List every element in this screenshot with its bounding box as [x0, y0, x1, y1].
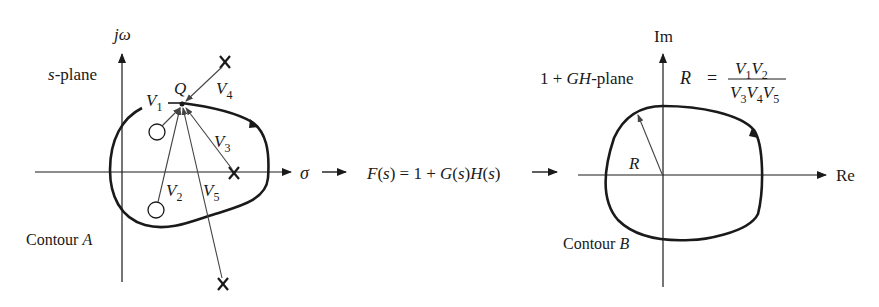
contour-b — [606, 106, 762, 240]
radius-vector — [638, 115, 662, 174]
sigma-axis-label: σ — [300, 163, 310, 183]
v3-label: V3 — [214, 132, 230, 155]
formula-denominator: V3V4V5 — [730, 83, 779, 106]
radius-label: R — [628, 154, 640, 173]
pole-bottom — [218, 278, 228, 290]
gh-plane-label: 1 + GH-plane — [540, 69, 634, 88]
v5-label: V5 — [203, 181, 219, 204]
zero-upper — [149, 124, 165, 140]
contour-a-direction-arrow — [249, 119, 259, 128]
mapping-function-label: F(s) = 1 + G(s)H(s) — [366, 164, 501, 183]
re-axis-label: Re — [836, 166, 855, 185]
contour-b-label: Contour B — [563, 235, 629, 252]
contour-a-label: Contour A — [26, 231, 92, 248]
nyquist-mapping-diagram: jω s-plane Q V1 V4 V3 V2 V5 σ Contour A … — [0, 0, 879, 307]
vector-v1 — [162, 108, 180, 126]
formula-eq: = — [707, 68, 717, 88]
v4-label: V4 — [216, 79, 232, 102]
gh-plane-diagram: Im 1 + GH-plane R = V1V2 V3V4V5 R Re Con… — [540, 27, 855, 287]
pole-top — [220, 56, 230, 68]
mapping-function: F(s) = 1 + G(s)H(s) — [322, 164, 557, 183]
jw-axis-label: jω — [112, 25, 131, 44]
im-axis-label: Im — [654, 27, 673, 46]
zero-lower — [148, 202, 164, 218]
v2-label: V2 — [166, 181, 182, 204]
vector-v3 — [186, 108, 232, 169]
contour-a — [110, 103, 268, 227]
pole-right — [229, 167, 239, 179]
formula-lhs: R — [679, 68, 691, 88]
v1-label: V1 — [146, 91, 162, 114]
s-plane-label: s-plane — [48, 65, 97, 84]
point-q-label: Q — [174, 79, 186, 98]
s-plane-diagram: jω s-plane Q V1 V4 V3 V2 V5 σ Contour A — [26, 25, 310, 290]
